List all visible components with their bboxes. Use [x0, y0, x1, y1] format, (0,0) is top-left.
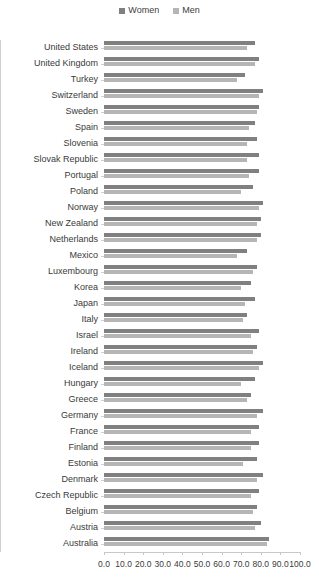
bar-women[interactable]	[104, 153, 259, 157]
bar-women[interactable]	[104, 201, 263, 205]
category-tick	[101, 192, 104, 193]
value-tick-mark	[143, 552, 144, 555]
bar-group	[104, 152, 300, 168]
legend-label: Women	[128, 6, 159, 15]
bar-women[interactable]	[104, 249, 247, 253]
bar-group	[104, 248, 300, 264]
category-label: Greece	[0, 395, 98, 404]
value-tick-label: 90.0	[272, 560, 289, 569]
bar-men[interactable]	[104, 222, 257, 226]
bar-men[interactable]	[104, 494, 251, 498]
bar-men[interactable]	[104, 366, 259, 370]
bar-women[interactable]	[104, 297, 255, 301]
value-tick-label: 80.0	[253, 560, 270, 569]
bar-men[interactable]	[104, 126, 249, 130]
category-tick	[101, 160, 104, 161]
bar-men[interactable]	[104, 414, 257, 418]
bar-men[interactable]	[104, 526, 255, 530]
bar-men[interactable]	[104, 110, 257, 114]
bar-men[interactable]	[104, 478, 257, 482]
bar-women[interactable]	[104, 281, 251, 285]
bar-men[interactable]	[104, 238, 257, 242]
bar-men[interactable]	[104, 318, 243, 322]
category-tick	[101, 496, 104, 497]
bar-women[interactable]	[104, 441, 259, 445]
bar-women[interactable]	[104, 361, 263, 365]
bar-group	[104, 312, 300, 328]
category-label: Israel	[0, 331, 98, 340]
bar-women[interactable]	[104, 473, 263, 477]
category-tick	[101, 352, 104, 353]
bar-men[interactable]	[104, 382, 241, 386]
bar-men[interactable]	[104, 398, 247, 402]
bar-men[interactable]	[104, 254, 237, 258]
legend-item-men[interactable]: Men	[173, 6, 200, 15]
bar-women[interactable]	[104, 489, 259, 493]
bar-women[interactable]	[104, 409, 263, 413]
bar-men[interactable]	[104, 174, 249, 178]
category-label: Estonia	[0, 459, 98, 468]
value-tick-mark	[280, 552, 281, 555]
category-tick	[101, 176, 104, 177]
bar-men[interactable]	[104, 334, 251, 338]
bar-men[interactable]	[104, 206, 259, 210]
bar-women[interactable]	[104, 265, 257, 269]
bar-group	[104, 216, 300, 232]
category-label: Netherlands	[0, 235, 98, 244]
bar-men[interactable]	[104, 190, 241, 194]
category-label: Sweden	[0, 107, 98, 116]
category-tick	[101, 400, 104, 401]
bar-men[interactable]	[104, 462, 243, 466]
category-label: Switzerland	[0, 91, 98, 100]
bar-men[interactable]	[104, 542, 267, 546]
bar-women[interactable]	[104, 57, 259, 61]
bar-men[interactable]	[104, 270, 253, 274]
bar-women[interactable]	[104, 217, 261, 221]
bar-men[interactable]	[104, 286, 241, 290]
bar-women[interactable]	[104, 425, 259, 429]
value-tick-label: 60.0	[213, 560, 230, 569]
bar-group	[104, 72, 300, 88]
bar-women[interactable]	[104, 537, 269, 541]
bar-men[interactable]	[104, 78, 237, 82]
bar-men[interactable]	[104, 142, 247, 146]
bar-women[interactable]	[104, 345, 257, 349]
bar-group	[104, 184, 300, 200]
category-tick	[101, 272, 104, 273]
bar-group	[104, 296, 300, 312]
bar-women[interactable]	[104, 105, 259, 109]
bar-women[interactable]	[104, 185, 253, 189]
category-label: Hungary	[0, 379, 98, 388]
category-tick	[101, 224, 104, 225]
category-tick	[101, 64, 104, 65]
bar-men[interactable]	[104, 158, 247, 162]
legend-item-women[interactable]: Women	[119, 6, 159, 15]
bar-women[interactable]	[104, 329, 259, 333]
bar-women[interactable]	[104, 505, 257, 509]
bar-women[interactable]	[104, 393, 251, 397]
bar-men[interactable]	[104, 46, 247, 50]
bar-women[interactable]	[104, 121, 255, 125]
bar-women[interactable]	[104, 457, 257, 461]
bar-women[interactable]	[104, 137, 257, 141]
value-tick-label: 20.0	[135, 560, 152, 569]
bar-men[interactable]	[104, 430, 251, 434]
bar-group	[104, 40, 300, 56]
bar-men[interactable]	[104, 62, 255, 66]
bar-women[interactable]	[104, 377, 255, 381]
bar-group	[104, 88, 300, 104]
bar-group	[104, 264, 300, 280]
bar-women[interactable]	[104, 233, 261, 237]
bar-men[interactable]	[104, 302, 245, 306]
bar-women[interactable]	[104, 169, 259, 173]
bar-women[interactable]	[104, 89, 263, 93]
bar-women[interactable]	[104, 41, 255, 45]
category-label: Austria	[0, 523, 98, 532]
bar-women[interactable]	[104, 521, 261, 525]
bar-women[interactable]	[104, 73, 245, 77]
bar-men[interactable]	[104, 510, 253, 514]
bar-women[interactable]	[104, 313, 247, 317]
bar-men[interactable]	[104, 350, 253, 354]
bar-men[interactable]	[104, 446, 251, 450]
bar-men[interactable]	[104, 94, 259, 98]
